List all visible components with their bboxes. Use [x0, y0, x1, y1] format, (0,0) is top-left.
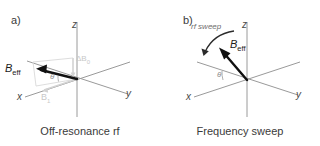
delta-b0-label: ΔB0 [76, 54, 90, 65]
panel-b-caption: Frequency sweep [160, 125, 320, 137]
b-eff-label: Beff [5, 62, 21, 77]
theta-arc [58, 76, 59, 82]
b1-component-line [44, 79, 77, 90]
panel-a-label: a) [11, 14, 21, 26]
axis-label-x: x [17, 91, 22, 102]
panel-a: a) z x y Beff ΔB0 B1 θ Off-resonance rf [0, 0, 160, 146]
parallelogram-edge-bottom [36, 79, 77, 86]
parallelogram-edge-left [33, 62, 36, 86]
theta-arc [222, 71, 223, 80]
panel-a-caption: Off-resonance rf [0, 125, 160, 137]
axis-label-x: x [186, 91, 191, 102]
b-eff-label-sub: eff [237, 44, 245, 53]
panel-b: b) z x y Beff rf sweep θ Frequency sweep [160, 0, 320, 146]
rf-sweep-label: rf sweep [191, 22, 221, 31]
axis-label-z: z [72, 19, 77, 30]
theta-label: θ [217, 70, 221, 79]
axis-label-y: y [296, 89, 301, 100]
parallelogram-edge-top [33, 58, 73, 62]
b1-label-sub: 1 [47, 98, 50, 104]
b1-label: B1 [41, 92, 50, 104]
delta-b0-label-sub: 0 [87, 59, 90, 65]
axis-label-z: z [242, 19, 247, 30]
b-eff-label-sub: eff [12, 68, 20, 77]
rf-sweep-arrowhead [202, 49, 209, 57]
b-eff-label: Beff [230, 38, 246, 53]
delta-b0-label-base: ΔB [76, 54, 87, 63]
figure-root: a) z x y Beff ΔB0 B1 θ Off-resonance rf [0, 0, 320, 146]
axis-label-y: y [126, 88, 131, 99]
theta-label: θ [50, 72, 54, 81]
